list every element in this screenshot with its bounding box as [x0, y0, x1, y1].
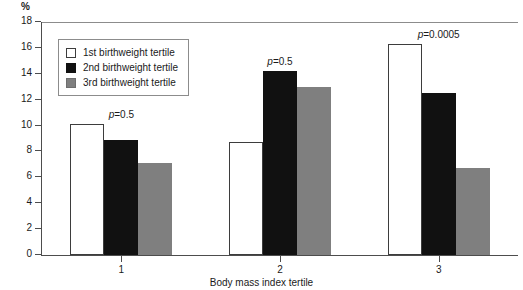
y-tick-mark	[35, 228, 41, 229]
x-tick-label: 2	[260, 264, 300, 275]
x-tick-label: 1	[101, 264, 141, 275]
bar	[138, 163, 172, 255]
legend-swatch-icon	[66, 63, 76, 73]
legend-item: 2nd birthweight tertile	[66, 60, 178, 75]
legend-swatch-icon	[66, 48, 76, 58]
bar	[422, 93, 456, 255]
y-tick-label: 6	[26, 170, 32, 181]
y-tick-mark	[35, 150, 41, 151]
x-axis-title: Body mass index tertile	[0, 277, 523, 288]
y-tick-mark	[35, 125, 41, 126]
bar	[456, 168, 490, 255]
y-tick-label: 0	[26, 248, 32, 259]
y-tick-label: 8	[26, 144, 32, 155]
bar	[388, 44, 422, 255]
y-tick-mark	[35, 73, 41, 74]
bar	[104, 140, 138, 255]
y-tick-label: 18	[21, 15, 32, 26]
p-value-label: p=0.5	[70, 109, 172, 120]
p-value-label: p=0.0005	[388, 29, 490, 40]
y-tick-label: 4	[26, 196, 32, 207]
y-tick-mark	[35, 254, 41, 255]
y-axis-unit-label: %	[21, 2, 30, 12]
y-tick-mark	[35, 176, 41, 177]
y-tick-label: 10	[21, 119, 32, 130]
legend-item: 1st birthweight tertile	[66, 45, 178, 60]
bar	[70, 124, 104, 255]
bar	[229, 142, 263, 255]
chart-legend: 1st birthweight tertile 2nd birthweight …	[58, 39, 189, 96]
x-tick-mark	[280, 256, 281, 262]
bar	[263, 71, 297, 255]
legend-item-label: 1st birthweight tertile	[83, 47, 175, 58]
legend-swatch-icon	[66, 78, 76, 88]
y-tick-mark	[35, 99, 41, 100]
y-tick-mark	[35, 202, 41, 203]
legend-item: 3rd birthweight tertile	[66, 75, 178, 90]
y-tick-mark	[35, 47, 41, 48]
y-tick-label: 2	[26, 222, 32, 233]
legend-item-label: 2nd birthweight tertile	[83, 62, 178, 73]
x-tick-mark	[439, 256, 440, 262]
bar	[297, 87, 331, 255]
bar-chart: % 024681012141618 p=0.5p=0.5p=0.0005 123…	[0, 0, 523, 290]
x-tick-label: 3	[419, 264, 459, 275]
p-value-label: p=0.5	[229, 56, 331, 67]
y-tick-label: 14	[21, 67, 32, 78]
y-tick-mark	[35, 21, 41, 22]
x-tick-mark	[121, 256, 122, 262]
legend-item-label: 3rd birthweight tertile	[83, 77, 176, 88]
y-tick-label: 12	[21, 93, 32, 104]
y-tick-label: 16	[21, 41, 32, 52]
